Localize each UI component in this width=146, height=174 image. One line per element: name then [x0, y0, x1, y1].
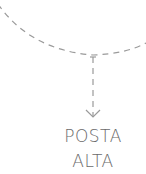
label-posta: POSTA — [43, 126, 143, 146]
label-alta: ALTA — [43, 151, 143, 171]
diagram-canvas — [0, 0, 146, 174]
dashed-arc — [0, 4, 146, 55]
